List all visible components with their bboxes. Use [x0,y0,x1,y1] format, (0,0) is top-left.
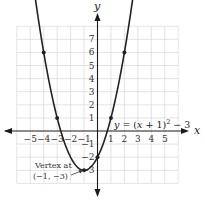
data-point [42,50,46,54]
data-point [96,155,100,159]
x-tick-label: 1 [108,134,114,144]
y-axis-up-arrow-icon [95,13,101,21]
x-tick-label: 2 [122,134,128,144]
y-tick-label: 1 [89,113,95,123]
x-tick-label: 4 [148,134,154,144]
y-tick-label: 7 [89,34,95,44]
y-tick-label: 6 [89,47,95,57]
vertex-annotation-line2: (−1, −3) [33,172,68,181]
data-point [109,116,113,120]
x-axis-left-arrow-icon [4,128,12,134]
data-point [122,50,126,54]
x-tick-label: −5 [24,134,38,144]
x-tick-label: −4 [37,134,51,144]
y-tick-label: −1 [81,139,94,149]
y-tick-label: 2 [89,100,95,110]
y-axis-label: y [93,0,101,13]
y-axis-down-arrow-icon [95,189,101,197]
x-tick-label: 5 [162,134,168,144]
x-tick-label: 3 [135,134,141,144]
y-tick-label: 5 [89,61,95,71]
eq-part1: = ( [119,119,137,130]
data-point [55,116,59,120]
x-axis-label: x [194,124,201,137]
parabola-chart: x y −5−4−3−2−1123457654321−1−2−3 y = (x … [0,0,205,202]
y-tick-label: −2 [81,152,94,162]
equation-label: y = (x + 1)2 − 3 [113,118,190,130]
y-tick-label: 4 [89,74,95,84]
x-tick-label: −2 [64,134,77,144]
y-tick-label: 3 [89,87,95,97]
vertex-annotation-line1: Vertex at [34,161,72,170]
eq-part3: − 3 [170,119,190,130]
eq-part2: + 1) [142,119,166,130]
